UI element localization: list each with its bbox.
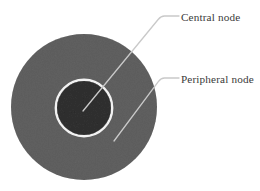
diagram-figure: Central node Peripheral node: [0, 0, 260, 191]
central-node-circle: [57, 81, 111, 135]
peripheral-node-label: Peripheral node: [181, 73, 254, 85]
central-node-label: Central node: [181, 11, 240, 23]
diagram-canvas: [0, 0, 260, 191]
